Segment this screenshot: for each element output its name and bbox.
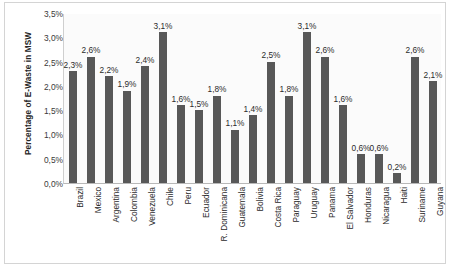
- bar-slot: 1,8%: [208, 14, 226, 183]
- bar[interactable]: [303, 32, 311, 183]
- bar-slot: 2,4%: [136, 14, 154, 183]
- x-axis-category-label: Paraguay: [279, 185, 297, 263]
- plot-area: 2,3%2,6%2,2%1,9%2,4%3,1%1,6%1,5%1,8%1,1%…: [63, 14, 441, 184]
- bar-slot: 1,4%: [244, 14, 262, 183]
- x-axis-category-label: Ecuador: [189, 185, 207, 263]
- x-axis-category-label: Guatemala: [225, 185, 243, 263]
- bar-slot: 1,9%: [118, 14, 136, 183]
- bar-slot: 2,6%: [82, 14, 100, 183]
- bar-value-label: 2,1%: [424, 71, 443, 79]
- bar[interactable]: [87, 57, 95, 183]
- x-axis-category-label: Chile: [153, 185, 171, 263]
- x-axis-category-label: Brazil: [63, 185, 81, 263]
- y-axis-tick: 2,5%: [29, 58, 63, 66]
- bar-value-label: 1,5%: [190, 100, 209, 108]
- bar-value-label: 1,8%: [280, 85, 299, 93]
- bar[interactable]: [213, 96, 221, 183]
- bar[interactable]: [105, 76, 113, 183]
- bar[interactable]: [195, 110, 203, 183]
- bar-value-label: 2,6%: [82, 46, 101, 54]
- bar[interactable]: [231, 130, 239, 183]
- x-axis-category-label: Suriname: [405, 185, 423, 263]
- bar-value-label: 2,5%: [262, 51, 281, 59]
- bar[interactable]: [177, 105, 185, 183]
- bar-value-label: 2,2%: [100, 66, 119, 74]
- bar[interactable]: [285, 96, 293, 183]
- x-axis-category-label: Bolivia: [243, 185, 261, 263]
- x-axis-category-text: Guyana: [436, 187, 444, 216]
- bar[interactable]: [141, 66, 149, 183]
- bar-value-label: 1,6%: [172, 95, 191, 103]
- bar-slot: 1,8%: [280, 14, 298, 183]
- bar-value-label: 2,4%: [136, 56, 155, 64]
- bar-value-label: 1,9%: [118, 80, 137, 88]
- bar-slot: 2,5%: [262, 14, 280, 183]
- bar[interactable]: [339, 105, 347, 183]
- bar-value-label: 0,6%: [370, 144, 389, 152]
- x-axis-category-labels: BrazilMexicoArgentinaColombiaVenezuelaCh…: [63, 185, 441, 263]
- bar-slot: 1,6%: [334, 14, 352, 183]
- bar-value-label: 0,2%: [388, 163, 407, 171]
- bar[interactable]: [123, 91, 131, 183]
- bar[interactable]: [159, 32, 167, 183]
- bar-slot: 3,1%: [298, 14, 316, 183]
- bar[interactable]: [249, 115, 257, 183]
- y-axis-tick: 1,5%: [29, 107, 63, 115]
- y-axis-tick: 0,0%: [29, 180, 63, 188]
- bar-value-label: 2,3%: [64, 61, 83, 69]
- bar[interactable]: [375, 154, 383, 183]
- bar-value-label: 0,6%: [352, 144, 371, 152]
- bars-layer: 2,3%2,6%2,2%1,9%2,4%3,1%1,6%1,5%1,8%1,1%…: [64, 14, 441, 183]
- y-axis-tick: 1,0%: [29, 131, 63, 139]
- x-axis-category-label: Mexico: [81, 185, 99, 263]
- bar[interactable]: [321, 57, 329, 183]
- bar-slot: 1,6%: [172, 14, 190, 183]
- bar-value-label: 2,6%: [406, 46, 425, 54]
- bar-slot: 0,2%: [388, 14, 406, 183]
- y-axis-tick: 3,0%: [29, 34, 63, 42]
- bar[interactable]: [357, 154, 365, 183]
- x-axis-category-label: Nicaragua: [369, 185, 387, 263]
- x-axis-category-label: Honduras: [351, 185, 369, 263]
- x-axis-category-label: R. Dominicana: [207, 185, 225, 263]
- bar-slot: 2,3%: [64, 14, 82, 183]
- x-axis-category-label: Haiti: [387, 185, 405, 263]
- bar-value-label: 1,8%: [208, 85, 227, 93]
- chart-container: Percentage of E-Waste in MSW 3,5%3,0%2,5…: [4, 2, 446, 264]
- bar-slot: 0,6%: [370, 14, 388, 183]
- bar-slot: 3,1%: [154, 14, 172, 183]
- bar[interactable]: [429, 81, 437, 183]
- bar-slot: 2,6%: [316, 14, 334, 183]
- bar-slot: 1,1%: [226, 14, 244, 183]
- bar[interactable]: [69, 71, 77, 183]
- x-axis-category-label: Uruguay: [297, 185, 315, 263]
- bar-value-label: 3,1%: [298, 22, 317, 30]
- y-axis-tick: 0,5%: [29, 156, 63, 164]
- x-axis-category-label: Colombia: [117, 185, 135, 263]
- y-axis-tick-labels: 3,5%3,0%2,5%2,0%1,5%1,0%0,5%0,0%: [29, 3, 63, 265]
- x-axis-category-label: El Salvador: [333, 185, 351, 263]
- bar-value-label: 2,6%: [316, 46, 335, 54]
- bar-value-label: 1,6%: [334, 95, 353, 103]
- x-axis-category-label: Panama: [315, 185, 333, 263]
- bar[interactable]: [267, 62, 275, 183]
- x-axis-category-label: Peru: [171, 185, 189, 263]
- bar[interactable]: [393, 173, 401, 183]
- x-axis-category-label: Argentina: [99, 185, 117, 263]
- bar-slot: 0,6%: [352, 14, 370, 183]
- bar[interactable]: [411, 57, 419, 183]
- bar-value-label: 1,1%: [226, 119, 245, 127]
- bar-value-label: 3,1%: [154, 22, 173, 30]
- x-axis-category-label: Costa Rica: [261, 185, 279, 263]
- x-axis-category-label: Venezuela: [135, 185, 153, 263]
- bar-slot: 2,6%: [406, 14, 424, 183]
- bar-value-label: 1,4%: [244, 105, 263, 113]
- y-axis-tick: 3,5%: [29, 10, 63, 18]
- bar-slot: 1,5%: [190, 14, 208, 183]
- x-axis-category-label: Guyana: [423, 185, 441, 263]
- bar-slot: 2,1%: [424, 14, 442, 183]
- bar-slot: 2,2%: [100, 14, 118, 183]
- y-axis-tick: 2,0%: [29, 83, 63, 91]
